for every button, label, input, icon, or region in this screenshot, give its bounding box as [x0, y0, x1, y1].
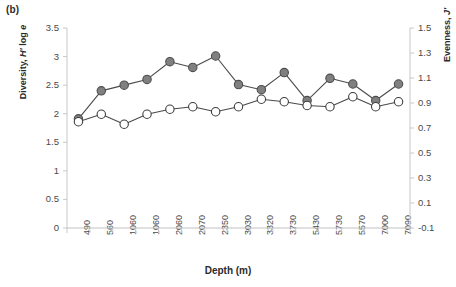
y-axis-left-tick-label: 1: [25, 165, 59, 176]
data-point: [280, 68, 288, 76]
data-point: [166, 58, 174, 66]
data-point: [166, 105, 174, 113]
y-axis-right-tick-label: 0.3: [418, 172, 452, 183]
data-point: [280, 98, 288, 106]
y-axis-left-tick-label: 2: [25, 108, 59, 119]
data-point: [120, 120, 128, 128]
data-point: [74, 118, 82, 126]
y-axis-right-tick-label: -0.1: [418, 222, 452, 233]
y-axis-left-tick-label: 0.5: [25, 193, 59, 204]
data-point: [257, 86, 265, 94]
data-point: [349, 93, 357, 101]
y-axis-left-tick-label: 3.5: [25, 22, 59, 33]
data-point: [257, 95, 265, 103]
y-axis-right-tick-label: 0.5: [418, 147, 452, 158]
data-point: [326, 74, 334, 82]
data-point: [189, 103, 197, 111]
y-axis-right-tick-label: 0.7: [418, 122, 452, 133]
data-point: [143, 75, 151, 83]
y-axis-left-title: Diversity, H' log e: [18, 0, 28, 137]
y-axis-right-title-text: Evenness, J': [442, 8, 452, 62]
y-axis-left-tick-label: 0: [25, 222, 59, 233]
y-axis-right-title: Evenness, J': [442, 0, 452, 95]
y-axis-right-tick-label: 0.1: [418, 197, 452, 208]
y-axis-right-tick-label: 0.9: [418, 97, 452, 108]
data-point: [97, 110, 105, 118]
data-point: [189, 63, 197, 71]
plot-svg: [67, 28, 410, 228]
data-point: [372, 103, 380, 111]
plot-area: [67, 28, 410, 228]
data-point: [120, 81, 128, 89]
data-point: [394, 80, 402, 88]
y-axis-left-tick-label: 3: [25, 51, 59, 62]
data-point: [303, 101, 311, 109]
data-point: [143, 110, 151, 118]
y-axis-left-tick-label: 2.5: [25, 79, 59, 90]
figure-panel-b: (b) Diversity, H' log e Evenness, J' Dep…: [0, 0, 456, 287]
y-axis-left-tick-label: 1.5: [25, 136, 59, 147]
data-point: [97, 87, 105, 95]
data-point: [394, 98, 402, 106]
x-axis-title: Depth (m): [148, 265, 308, 276]
data-point: [211, 108, 219, 116]
data-point: [326, 103, 334, 111]
data-point: [211, 52, 219, 60]
y-axis-left-title-text: Diversity, H' log e: [18, 25, 28, 100]
data-point: [234, 103, 242, 111]
data-point: [234, 80, 242, 88]
data-point: [349, 80, 357, 88]
